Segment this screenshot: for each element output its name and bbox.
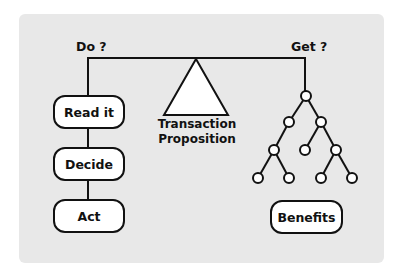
step-decide: Decide [53, 147, 125, 181]
transaction-caption: Transaction Proposition [156, 117, 238, 147]
benefit-tree-nodes [253, 91, 357, 183]
caption-line-1: Transaction [156, 117, 238, 132]
get-heading: Get ? [291, 39, 327, 54]
caption-line-2: Proposition [156, 132, 238, 147]
step-act: Act [53, 199, 125, 233]
step-read-it: Read it [53, 95, 125, 129]
fulcrum-triangle-icon [164, 59, 228, 115]
benefit-tree-edges [258, 96, 352, 178]
do-heading: Do ? [76, 39, 107, 54]
benefits-box: Benefits [270, 200, 343, 234]
